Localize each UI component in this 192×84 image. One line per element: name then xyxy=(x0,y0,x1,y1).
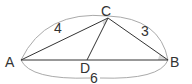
length-cb: 3 xyxy=(141,23,149,39)
label-b: B xyxy=(170,54,179,70)
triangle-diagram: A B C D 4 3 6 xyxy=(0,0,192,84)
label-d: D xyxy=(80,60,90,76)
segment-cb xyxy=(108,18,168,60)
label-a: A xyxy=(5,54,15,70)
segment-cd xyxy=(87,18,108,60)
length-ac: 4 xyxy=(54,20,62,36)
length-ab: 6 xyxy=(90,70,98,84)
label-c: C xyxy=(101,3,111,19)
segment-ac xyxy=(21,18,108,60)
